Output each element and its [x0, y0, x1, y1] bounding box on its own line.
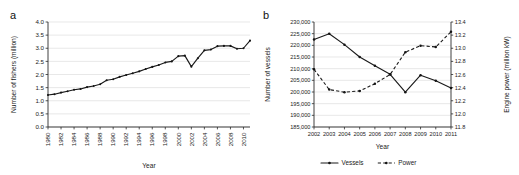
- data-point: [242, 47, 244, 49]
- data-point: [138, 70, 140, 72]
- data-point: [450, 87, 453, 90]
- axis-tick-label: 1984: [70, 132, 77, 146]
- axis-tick-label: 1996: [148, 132, 155, 146]
- x-axis-title: Year: [142, 162, 156, 169]
- axis-tick-label: 205,000: [290, 77, 310, 83]
- chart-legend: VesselsPower: [321, 159, 417, 166]
- data-point: [171, 60, 173, 62]
- data-point: [53, 93, 55, 95]
- data-point: [419, 74, 422, 77]
- data-point: [404, 91, 407, 94]
- data-point: [313, 38, 316, 41]
- data-point: [112, 78, 114, 80]
- axis-tick-label: 12.0: [455, 111, 466, 117]
- axis-tick-label: 2010: [240, 132, 247, 146]
- axis-tick-label: 1.5: [35, 84, 44, 91]
- axis-tick-label: 12.6: [455, 72, 466, 78]
- axis-tick-label: 3.5: [35, 31, 44, 38]
- axis-tick-label: 200,000: [290, 89, 310, 95]
- axis-tick-label: 0.0: [35, 123, 44, 130]
- data-point: [119, 76, 121, 78]
- axis-tick-label: 1986: [83, 132, 90, 146]
- axis-tick-label: 13.4: [455, 19, 466, 25]
- fishers-series-line: [48, 41, 250, 95]
- axis-tick-label: 1988: [96, 132, 103, 146]
- axis-tick-label: 2008: [227, 132, 234, 146]
- data-point: [223, 45, 225, 47]
- data-point: [419, 44, 422, 47]
- chart-panel-a: a 0.00.51.01.52.02.53.03.54.019801982198…: [0, 0, 260, 175]
- axis-tick-label: 1982: [57, 132, 64, 146]
- axis-tick-label: 190,000: [290, 112, 310, 118]
- axis-tick-label: 2005: [353, 131, 365, 137]
- data-point: [249, 40, 251, 42]
- axis-tick-label: 11.8: [455, 124, 465, 130]
- data-point: [389, 73, 392, 76]
- axis-tick-label: 215,000: [290, 54, 310, 60]
- axis-tick-label: 2002: [188, 132, 195, 146]
- data-point: [358, 56, 361, 59]
- chart-panel-b: b 185,000190,000195,000200,000205,000210…: [259, 0, 519, 175]
- data-point: [151, 66, 153, 68]
- data-point: [60, 92, 62, 94]
- axis-tick-label: 13.0: [455, 45, 466, 51]
- data-point: [374, 82, 377, 85]
- data-point: [47, 94, 49, 96]
- axis-tick-label: 12.8: [455, 58, 466, 64]
- data-point: [450, 31, 453, 34]
- series-line-power: [314, 32, 451, 92]
- axis-tick-label: 2006: [214, 132, 221, 146]
- data-point: [216, 45, 218, 47]
- data-point: [164, 61, 166, 63]
- axis-tick-label: 2007: [384, 131, 396, 137]
- legend-marker: [385, 162, 388, 165]
- data-point: [435, 80, 438, 83]
- data-point: [343, 91, 346, 94]
- y-axis-left-title: Number of vessels: [264, 47, 271, 102]
- data-point: [435, 46, 438, 49]
- data-point: [328, 88, 331, 91]
- vessels-power-line-chart: 185,000190,000195,000200,000205,000210,0…: [259, 0, 519, 175]
- axis-tick-label: 2008: [399, 131, 411, 137]
- data-point: [145, 68, 147, 70]
- axis-tick-label: 1994: [135, 132, 142, 146]
- data-point: [197, 57, 199, 59]
- data-point: [343, 43, 346, 46]
- panel-b-label: b: [263, 9, 269, 21]
- panel-a-label: a: [10, 9, 16, 21]
- axis-tick-label: 2002: [308, 131, 320, 137]
- data-point: [177, 55, 179, 57]
- axis-tick-label: 2.5: [35, 58, 44, 65]
- data-point: [125, 74, 127, 76]
- data-point: [236, 48, 238, 50]
- data-point: [73, 89, 75, 91]
- axis-tick-label: 1.0: [35, 97, 44, 104]
- axis-tick-label: 2004: [201, 132, 208, 146]
- data-point: [229, 45, 231, 47]
- axis-tick-label: 195,000: [290, 101, 310, 107]
- data-point: [313, 68, 316, 71]
- data-point: [203, 49, 205, 51]
- data-point: [86, 86, 88, 88]
- axis-tick-label: 1990: [109, 132, 116, 146]
- data-point: [158, 64, 160, 66]
- axis-tick-label: 12.2: [455, 98, 466, 104]
- axis-tick-label: 2011: [445, 131, 457, 137]
- data-point: [374, 65, 377, 68]
- data-point: [210, 49, 212, 51]
- axis-tick-label: 220,000: [290, 42, 310, 48]
- fishers-line-chart: 0.00.51.01.52.02.53.03.54.01980198219841…: [0, 0, 260, 175]
- data-point: [132, 72, 134, 74]
- axis-tick-label: 185,000: [290, 124, 310, 130]
- axis-tick-label: 2004: [338, 131, 350, 137]
- data-point: [66, 90, 68, 92]
- y-axis-title: Number of fishers (million): [10, 36, 18, 113]
- data-point: [80, 88, 82, 90]
- axis-tick-label: 1980: [44, 132, 51, 146]
- axis-tick-label: 3.0: [35, 44, 44, 51]
- axis-tick-label: 1992: [122, 132, 129, 146]
- axis-tick-label: 2006: [369, 131, 381, 137]
- data-point: [184, 55, 186, 57]
- axis-tick-label: 2.0: [35, 71, 44, 78]
- series-line-vessels: [314, 34, 451, 93]
